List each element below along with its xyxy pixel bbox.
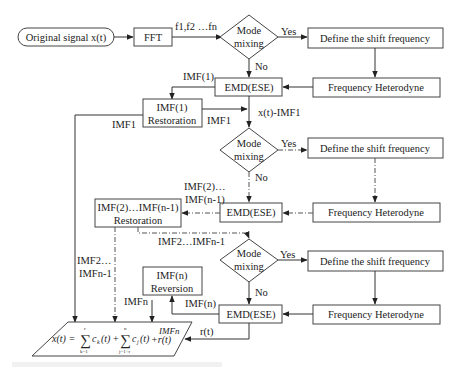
svg-text:IMF1: IMF1 bbox=[112, 119, 136, 130]
svg-text:Mode: Mode bbox=[237, 248, 262, 259]
emd-box-1: EMD(ESE) bbox=[215, 78, 282, 96]
svg-text:Define the shift frequency: Define the shift frequency bbox=[320, 256, 431, 267]
svg-text:k: k bbox=[97, 339, 100, 345]
result-equation: x(t) = ∑ r k=1 c k (t) + ∑ n j=1+r c j (… bbox=[32, 322, 192, 356]
emd-box-3: EMD(ESE) bbox=[219, 305, 282, 323]
define-shift-box-2: Define the shift frequency bbox=[308, 138, 443, 158]
emd-box-2: EMD(ESE) bbox=[220, 203, 282, 222]
decision-mode-mixing-3: Mode mixing bbox=[220, 239, 278, 282]
svg-text:r(t): r(t) bbox=[200, 326, 214, 338]
svg-text:mixing: mixing bbox=[234, 38, 265, 49]
figure-caption-faint bbox=[12, 362, 222, 367]
fft-output-label: f1,f2 …fn bbox=[175, 21, 218, 32]
svg-text:No: No bbox=[255, 61, 268, 72]
svg-text:Define the shift frequency: Define the shift frequency bbox=[320, 33, 431, 44]
svg-text:IMFn-1: IMFn-1 bbox=[79, 268, 112, 279]
imfn-reversion-box: IMF(n) Reversion bbox=[143, 267, 202, 295]
freq-heterodyne-box-2: Frequency Heterodyne bbox=[313, 203, 440, 222]
svg-text:Original signal x(t): Original signal x(t) bbox=[26, 32, 107, 44]
svg-text:mixing: mixing bbox=[234, 261, 265, 272]
imf1-restoration-box: IMF(1) Restoration bbox=[143, 99, 202, 127]
svg-text:IMF(n): IMF(n) bbox=[157, 270, 188, 282]
svg-text:IMF(2)…IMF(n-1): IMF(2)…IMF(n-1) bbox=[97, 202, 179, 214]
decision-mode-mixing-2: Mode mixing bbox=[220, 128, 278, 172]
svg-text:IMF(n): IMF(n) bbox=[185, 298, 216, 310]
flowchart: Original signal x(t) FFT f1,f2 …fn Mode … bbox=[0, 0, 461, 373]
svg-text:Restoration: Restoration bbox=[148, 115, 197, 126]
svg-text:∑: ∑ bbox=[80, 332, 91, 349]
svg-text:IMF2…: IMF2… bbox=[77, 255, 111, 266]
decision-mode-mixing-1: Mode mixing bbox=[220, 15, 278, 59]
svg-text:Mode: Mode bbox=[237, 25, 262, 36]
svg-text:+: + bbox=[113, 333, 119, 344]
svg-text:IMF1: IMF1 bbox=[207, 115, 231, 126]
svg-text:Yes: Yes bbox=[281, 26, 296, 37]
svg-text:k=1: k=1 bbox=[80, 349, 88, 354]
svg-text:IMF(1): IMF(1) bbox=[157, 102, 188, 114]
imf2-restoration-box: IMF(2)…IMF(n-1) Restoration bbox=[95, 199, 181, 227]
svg-text:Reversion: Reversion bbox=[151, 283, 194, 294]
svg-text:IMF2…IMFn-1: IMF2…IMFn-1 bbox=[158, 236, 225, 247]
svg-text:j: j bbox=[136, 339, 139, 345]
fft-box: FFT bbox=[134, 28, 172, 46]
svg-text:Frequency Heterodyne: Frequency Heterodyne bbox=[328, 82, 424, 93]
svg-text:EMD(ESE): EMD(ESE) bbox=[225, 82, 274, 94]
svg-text:Frequency Heterodyne: Frequency Heterodyne bbox=[328, 309, 424, 320]
svg-text:IMF(2)…: IMF(2)… bbox=[184, 181, 225, 193]
svg-text:Yes: Yes bbox=[281, 138, 296, 149]
svg-text:(t): (t) bbox=[101, 333, 111, 345]
svg-text:EMD(ESE): EMD(ESE) bbox=[227, 309, 276, 321]
svg-text:Frequency Heterodyne: Frequency Heterodyne bbox=[328, 207, 424, 218]
svg-text:x(t)-IMF1: x(t)-IMF1 bbox=[258, 107, 301, 119]
define-shift-box-3: Define the shift frequency bbox=[308, 251, 443, 271]
svg-text:IMF(n-1): IMF(n-1) bbox=[185, 194, 225, 206]
flowchart-canvas: Original signal x(t) FFT f1,f2 …fn Mode … bbox=[0, 0, 461, 373]
svg-text:IMFn: IMFn bbox=[158, 326, 180, 336]
svg-text:j=1+r: j=1+r bbox=[118, 349, 131, 354]
svg-text:EMD(ESE): EMD(ESE) bbox=[227, 207, 276, 219]
svg-text:(t): (t) bbox=[140, 333, 150, 345]
svg-text:No: No bbox=[255, 172, 268, 183]
freq-heterodyne-box-1: Frequency Heterodyne bbox=[313, 78, 440, 97]
define-shift-box-1: Define the shift frequency bbox=[308, 28, 443, 48]
svg-text:IMF(1): IMF(1) bbox=[183, 71, 214, 83]
start-terminal: Original signal x(t) bbox=[18, 28, 114, 46]
svg-text:No: No bbox=[255, 287, 268, 298]
freq-heterodyne-box-3: Frequency Heterodyne bbox=[313, 305, 440, 324]
svg-text:mixing: mixing bbox=[234, 151, 265, 162]
svg-text:x(t) =: x(t) = bbox=[51, 333, 75, 345]
svg-text:Yes: Yes bbox=[280, 249, 295, 260]
svg-text:∑: ∑ bbox=[120, 332, 131, 349]
svg-text:Restoration: Restoration bbox=[114, 215, 163, 226]
svg-text:IMFn: IMFn bbox=[124, 296, 149, 307]
svg-text:Mode: Mode bbox=[237, 138, 262, 149]
svg-text:FFT: FFT bbox=[144, 32, 163, 43]
svg-text:Define the shift frequency: Define the shift frequency bbox=[320, 143, 431, 154]
